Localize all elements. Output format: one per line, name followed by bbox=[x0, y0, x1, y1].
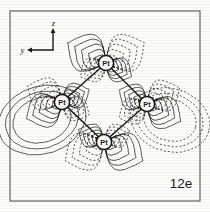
contour-plot-canvas: PtPtPtPt z y 12e bbox=[0, 0, 210, 212]
atom-label: Pt bbox=[58, 98, 66, 107]
orbital-contour-figure: PtPtPtPt z y 12e bbox=[0, 0, 210, 212]
y-axis-label: y bbox=[20, 45, 25, 55]
figure-label-12e: 12e bbox=[170, 176, 193, 191]
atom-marker-pt-3: Pt bbox=[96, 134, 111, 149]
atom-label: Pt bbox=[100, 138, 108, 147]
atom-label: Pt bbox=[102, 59, 110, 68]
z-axis-label: z bbox=[51, 18, 56, 28]
atom-marker-pt-0: Pt bbox=[98, 55, 113, 70]
atom-label: Pt bbox=[143, 100, 151, 109]
atom-marker-pt-1: Pt bbox=[54, 94, 69, 109]
atom-marker-pt-2: Pt bbox=[139, 96, 154, 111]
